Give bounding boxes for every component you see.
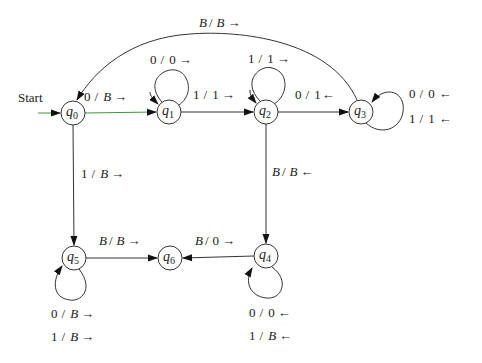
label-q5-loop-1: 1/B→ xyxy=(51,329,94,344)
label-q0-q1: 0/B→ xyxy=(84,89,127,104)
state-diagram: Start q0 q1 q2 q3 q4 q5 xyxy=(0,0,482,363)
state-q2: q2 xyxy=(254,100,278,124)
state-q4: q4 xyxy=(254,244,278,268)
state-q5: q5 xyxy=(62,246,86,270)
label-q5-loop-0: 0/B→ xyxy=(51,306,94,321)
label-q3-q0: B/B→ xyxy=(199,15,241,30)
label-q4-loop-0: 0/0← xyxy=(249,305,291,320)
label-q1-q2: 1/1→ xyxy=(193,87,235,102)
edge-q0-q1 xyxy=(85,112,156,113)
state-q1: q1 xyxy=(157,100,181,124)
loop-q1 xyxy=(155,70,189,105)
label-q5-q6: B/B→ xyxy=(99,233,141,248)
label-q3-loop-1: 1/1← xyxy=(409,111,452,126)
label-q2-q4: B/B← xyxy=(272,164,314,179)
loop-q2 xyxy=(252,67,285,104)
state-q6: q6 xyxy=(158,246,182,270)
edge-q0-q5 xyxy=(73,125,74,245)
label-q3-loop-0: 0/0← xyxy=(409,86,452,101)
loop-q4 xyxy=(248,267,282,298)
label-q2-q3: 0/1← xyxy=(295,87,335,102)
start-label: Start xyxy=(18,90,43,105)
label-q1-loop: 0/0→ xyxy=(150,52,192,67)
state-q0: q0 xyxy=(61,101,85,125)
state-q3: q3 xyxy=(349,100,373,124)
label-q2-loop: 1/1→ xyxy=(248,51,290,66)
loop-q5 xyxy=(55,266,86,300)
edge-q4-q6 xyxy=(183,256,254,258)
label-q4-loop-1: 1/B← xyxy=(249,328,292,343)
label-q4-q6: B/0→ xyxy=(195,233,235,248)
label-q0-q5: 1/B→ xyxy=(81,166,124,181)
